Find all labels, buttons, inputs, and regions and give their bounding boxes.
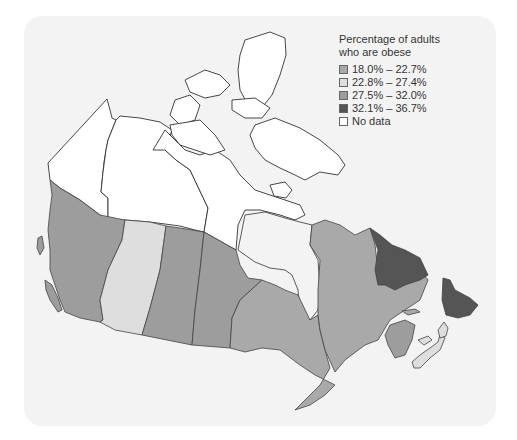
region-cape-breton: [438, 322, 448, 338]
legend-label: 32.1% – 36.7%: [352, 102, 427, 115]
legend-label: 27.5% – 32.0%: [352, 89, 427, 102]
legend-swatch: [339, 91, 348, 100]
legend-item: No data: [339, 115, 469, 128]
legend-swatch: [339, 78, 348, 87]
legend-title-line2: who are obese: [339, 46, 469, 59]
legend-title: Percentage of adults who are obese: [339, 33, 469, 59]
region-new-brunswick: [385, 320, 415, 358]
legend-item: 32.1% – 36.7%: [339, 102, 469, 115]
legend-swatch: [339, 104, 348, 113]
region-newfoundland: [442, 278, 478, 318]
region-southampton-island: [270, 182, 292, 198]
region-ellesmere-island: [238, 32, 286, 110]
legend-item: 22.8% – 27.4%: [339, 76, 469, 89]
legend: Percentage of adults who are obese 18.0%…: [339, 33, 469, 128]
region-quebec: [310, 220, 428, 372]
region-prince-edward-island: [418, 336, 432, 345]
legend-label: No data: [352, 115, 391, 128]
legend-label: 18.0% – 22.7%: [352, 63, 427, 76]
legend-item: 18.0% – 22.7%: [339, 63, 469, 76]
legend-item: 27.5% – 32.0%: [339, 89, 469, 102]
legend-title-line1: Percentage of adults: [339, 33, 469, 46]
legend-swatch: [339, 65, 348, 74]
legend-label: 22.8% – 27.4%: [352, 76, 427, 89]
legend-swatch: [339, 117, 348, 126]
region-baffin-island: [250, 118, 345, 180]
region-haida-gwaii: [37, 236, 44, 255]
region-queen-elizabeth-islands: [185, 70, 230, 98]
